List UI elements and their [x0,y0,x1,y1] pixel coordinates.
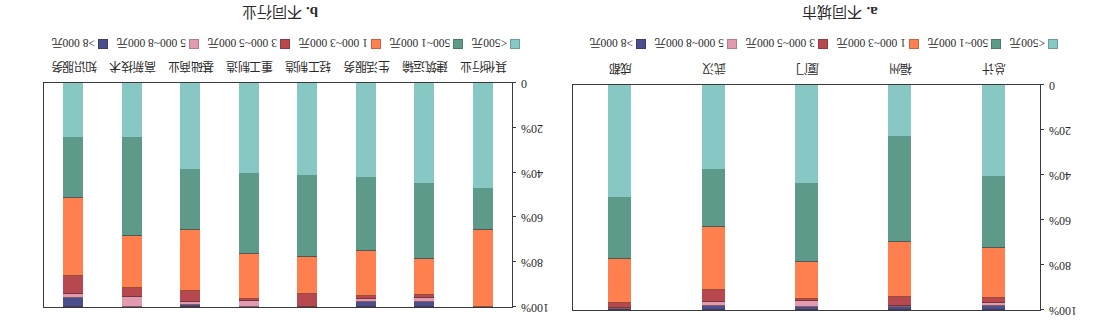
legend-swatch-icon [818,39,828,49]
bar-segment [122,297,142,307]
bar-segment [122,83,142,137]
bar-segment [180,305,200,307]
legend-item: 500~1 000元 [390,36,463,52]
bar-segment [356,299,376,302]
bar-segment [982,85,1005,176]
bar-segment [608,259,631,303]
legend-item: 1 000~3 000元 [299,36,381,52]
stacked-bar [297,83,317,307]
bar-segment [888,307,911,310]
bar-segment [63,198,83,275]
legend-label: 3 000~5 000元 [208,36,277,52]
legend-swatch-icon [453,39,463,49]
bar-segment [297,175,317,257]
y-tick-mark [1040,264,1044,265]
y-tick-mark [512,216,516,217]
bar-segment [239,301,259,307]
bar-segment [356,251,376,296]
bar-segment [356,296,376,299]
y-tick-label: 80% [1049,260,1071,272]
y-tick-label: 40% [521,168,543,180]
legend-label: 1 000~3 000元 [299,36,368,52]
bar-segment [795,85,818,183]
bar-segment [414,183,434,259]
bar-segment [297,294,317,307]
bar-segment [297,257,317,294]
bar-segment [239,173,259,255]
bar-segment [122,288,142,297]
bar-segment [473,230,493,307]
bar-segment [414,83,434,183]
bar-segment [356,83,376,177]
legend-swatch-icon [991,39,1001,49]
bar-segment [297,83,317,175]
bar-segment [122,137,142,237]
bar-segment [795,262,818,299]
y-tick-label: 60% [1049,215,1071,227]
bar-segment [702,85,725,169]
stacked-bar [608,85,631,310]
y-tick-label: 40% [1049,170,1071,182]
bar-segment [414,295,434,298]
x-category-label: 成都 [609,61,632,78]
legend-swatch-icon [98,39,108,49]
stacked-bar [63,83,83,307]
bar-segment [414,298,434,302]
stacked-bar [356,83,376,307]
bar-segment [702,302,725,306]
legend-label: 1 000~3 000元 [837,36,906,52]
bar-segment [63,83,83,137]
bar-segment [239,254,259,299]
bar-segment [702,306,725,310]
y-tick-mark [1040,309,1044,310]
stacked-bar [122,83,142,307]
bar-segment [473,188,493,229]
y-tick-label: 60% [521,212,543,224]
x-category-label: 生活服务 [344,59,390,76]
legend-swatch-icon [1048,39,1058,49]
x-category-label: 厦门 [796,61,819,78]
legend-item: <500元 [1010,36,1058,52]
bar-segment [239,299,259,301]
stacked-bar [982,85,1005,310]
y-tick-label: 0 [1049,80,1055,92]
bar-segment [122,236,142,288]
legend-swatch-icon [636,39,646,49]
legend-label: >8 000元 [52,36,95,52]
x-category-label: 武汉 [703,61,726,78]
stacked-bar [702,85,725,310]
bar-segment [414,259,434,295]
y-tick-mark [512,172,516,173]
chart-title-b: b.不同行业 [242,3,318,24]
legend-swatch-icon [909,39,919,49]
bar-segment [888,297,911,305]
legend-label: >8 000元 [590,36,633,52]
y-tick-mark [1040,174,1044,175]
legend-label: 5 000~8 000元 [117,36,186,52]
bar-segment [888,242,911,297]
bar-segment [982,306,1005,310]
legend-label: <500元 [1010,36,1045,52]
chart-tag-a: a. [866,4,877,20]
bar-segment [180,83,200,169]
plot-area-b [43,82,513,308]
bar-segment [180,291,200,302]
legend-item: <500元 [472,36,520,52]
bar-segment [63,137,83,199]
x-category-label: 基础商业 [168,59,214,76]
legend-item: 1 000~3 000元 [837,36,919,52]
x-category-label: 其他行业 [461,59,507,76]
chart-title-a: a.不同城市 [802,3,877,24]
legend-swatch-icon [280,39,290,49]
bar-segment [239,83,259,173]
legend-item: >8 000元 [590,36,646,52]
bar-segment [63,294,83,298]
bar-segment [795,299,818,301]
bar-segment [702,169,725,226]
bar-segment [795,183,818,262]
legend-item: 5 000~8 000元 [655,36,737,52]
x-category-label: 知识服务 [51,59,97,76]
legend-a: <500元500~1 000元1 000~3 000元3 000~5 000元5… [581,36,1058,52]
stacked-bar [473,83,493,307]
legend-swatch-icon [189,39,199,49]
